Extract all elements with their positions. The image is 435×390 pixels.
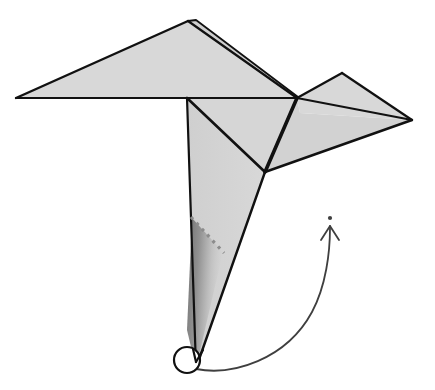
left-wing-panel (16, 21, 297, 98)
rotation-arrow-head-left (321, 226, 330, 240)
rotation-arrow-dot (328, 216, 332, 220)
rotation-arrow-head-right (330, 226, 339, 240)
origami-fold-diagram (0, 0, 435, 390)
diagram-canvas (0, 0, 435, 390)
right-wing-upper-panel (297, 73, 412, 120)
